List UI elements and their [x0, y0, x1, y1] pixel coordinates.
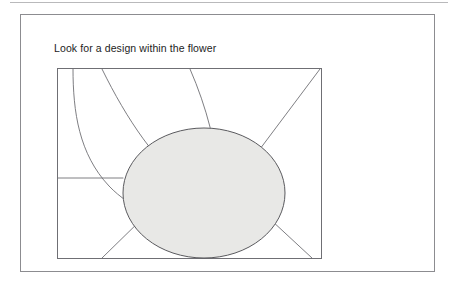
figure-container: Look for a design within the flower [20, 14, 435, 272]
page-canvas: Look for a design within the flower [0, 0, 455, 288]
flower-drawing-svg [57, 68, 322, 259]
flower-line-drawing [57, 68, 322, 259]
page-top-rule [10, 2, 448, 3]
figure-caption: Look for a design within the flower [54, 42, 216, 55]
flower-center-ellipse [123, 128, 285, 258]
